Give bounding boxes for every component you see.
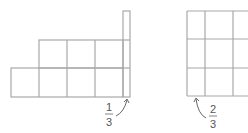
left-denominator: 3 (106, 116, 112, 128)
right-numerator: 2 (210, 103, 216, 115)
right-figure-grid (187, 11, 248, 96)
left-figure-grid (11, 11, 130, 97)
right-fraction-label: 2 3 (209, 103, 217, 130)
right-arrow-icon (194, 98, 206, 118)
right-denominator: 3 (210, 118, 216, 130)
left-numerator: 1 (106, 101, 112, 113)
left-arrow-icon (116, 99, 129, 116)
left-fraction-label: 1 3 (105, 101, 113, 128)
fraction-diagram: 1 3 2 3 (0, 0, 248, 133)
